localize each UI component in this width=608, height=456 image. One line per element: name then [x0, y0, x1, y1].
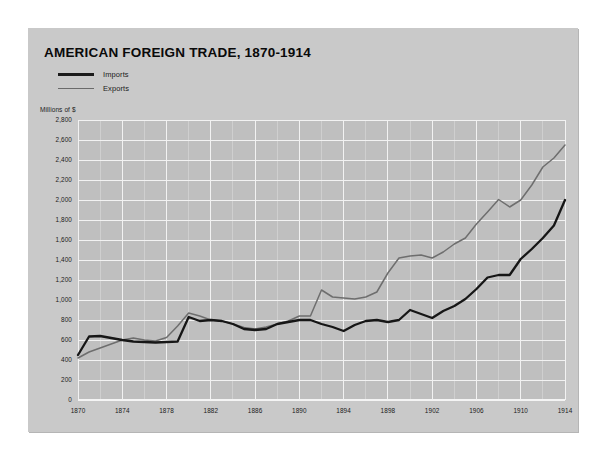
y-axis-tick-label: 2,800 [56, 116, 73, 123]
y-axis-tick-label: 1,400 [56, 256, 73, 263]
x-axis-tick-label: 1870 [71, 407, 86, 414]
x-axis-tick-label: 1906 [469, 407, 484, 414]
y-axis-tick-label: 800 [61, 316, 72, 323]
y-axis-tick-label: 200 [61, 376, 72, 383]
x-axis-tick-label: 1894 [336, 407, 351, 414]
x-axis-tick-label: 1886 [248, 407, 263, 414]
x-axis-tick-label: 1914 [558, 407, 573, 414]
y-axis-tick-label: 1,600 [56, 236, 73, 243]
y-axis-tick-label: 2,600 [56, 136, 73, 143]
page-root: AMERICAN FOREIGN TRADE, 1870-1914 Import… [0, 0, 608, 456]
x-axis-tick-labels: 1870187418781882188618901894189819021906… [71, 407, 573, 414]
y-axis-tick-labels: 02004006008001,0001,2001,4001,6001,8002,… [56, 116, 73, 403]
chart-card: AMERICAN FOREIGN TRADE, 1870-1914 Import… [28, 28, 578, 432]
y-axis-tick-label: 400 [61, 356, 72, 363]
x-axis-tick-label: 1910 [513, 407, 528, 414]
x-axis-tick-label: 1874 [115, 407, 130, 414]
plot-area: 02004006008001,0001,2001,4001,6001,8002,… [28, 28, 578, 432]
y-axis-tick-label: 600 [61, 336, 72, 343]
x-axis-tick-label: 1882 [204, 407, 219, 414]
x-axis-tick-label: 1902 [425, 407, 440, 414]
y-axis-tick-label: 2,400 [56, 156, 73, 163]
y-axis-tick-label: 1,200 [56, 276, 73, 283]
x-axis-tick-label: 1890 [292, 407, 307, 414]
y-axis-tick-label: 2,000 [56, 196, 73, 203]
y-axis-tick-label: 0 [68, 396, 72, 403]
chart-svg: 02004006008001,0001,2001,4001,6001,8002,… [28, 28, 578, 432]
y-axis-tick-label: 1,800 [56, 216, 73, 223]
y-axis-tick-label: 2,200 [56, 176, 73, 183]
y-axis-tick-label: 1,000 [56, 296, 73, 303]
x-axis-tick-label: 1898 [381, 407, 396, 414]
x-axis-tick-label: 1878 [159, 407, 174, 414]
